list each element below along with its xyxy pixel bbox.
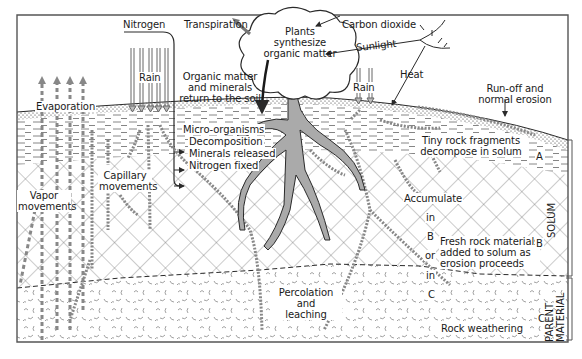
runoff-line-1: Run-off and (475, 83, 555, 94)
plants-synthesize-label: Plants synthesize organic matter (252, 26, 348, 59)
fresh-rock-label: Fresh rock materials added to solum as e… (439, 236, 540, 269)
fresh-rock-line-1: Fresh rock materials (440, 236, 539, 247)
material-label: MATERIAL (555, 293, 566, 342)
organic-return-label: Organic matter and minerals return to th… (178, 71, 262, 104)
b-mid-label: B (426, 231, 435, 242)
minerals-released-label: Minerals released (188, 148, 276, 159)
in-label-2: in (425, 270, 436, 281)
capillary-line-1: Capillary (99, 170, 151, 181)
tiny-rock-line-1: Tiny rock fragments (416, 135, 526, 146)
capillary-line-2: movements (99, 181, 151, 192)
horizon-b-label: B (535, 238, 544, 249)
capillary-label: Capillary movements (98, 170, 152, 192)
transpiration-label: Transpiration (184, 19, 248, 30)
rain-right-label: Rain (352, 82, 376, 93)
runoff-label: Run-off and normal erosion (475, 83, 555, 105)
percolation-line-1: Percolation (271, 287, 341, 298)
plants-line-2: synthesize (252, 37, 348, 48)
evaporation-label: Evaporation (35, 101, 96, 112)
organic-return-line-3: return to the soil (178, 93, 262, 104)
parent-label: PARENT (544, 303, 555, 342)
or-label: or (424, 250, 436, 261)
plants-line-3: organic matter (252, 48, 348, 59)
organic-return-line-2: and minerals (178, 82, 262, 93)
runoff-line-2: normal erosion (475, 94, 555, 105)
percolation-label: Percolation and leaching (270, 287, 342, 320)
rock-weathering-label: Rock weathering (440, 323, 524, 334)
nitrogen-label: Nitrogen (123, 19, 165, 30)
fresh-rock-line-3: erosion proceeds (440, 258, 539, 269)
sun-icon (420, 20, 450, 48)
micro-organisms-label: Micro-organisms (182, 124, 265, 135)
fresh-rock-line-2: added to solum as (440, 247, 539, 258)
rain-left-label: Rain (138, 72, 162, 83)
tiny-rock-label: Tiny rock fragments decompose in solum (415, 135, 527, 157)
vapor-line-1: Vapor (18, 190, 70, 201)
percolation-line-2: and (271, 298, 341, 309)
heat-label: Heat (400, 69, 423, 80)
in-label-1: in (425, 212, 436, 223)
organic-return-line-1: Organic matter (178, 71, 262, 82)
nitrogen-fixed-label: Nitrogen fixed (188, 160, 259, 171)
accumulate-label: Accumulate (403, 193, 463, 204)
horizon-a-label: A (535, 151, 544, 162)
plants-line-1: Plants (252, 26, 348, 37)
solum-label: SOLUM (546, 203, 557, 238)
vapor-label: Vapor movements (17, 190, 71, 212)
decomposition-label: Decomposition (188, 136, 264, 147)
soil-formation-diagram: Nitrogen Transpiration Carbon dioxide Su… (0, 0, 582, 359)
tiny-rock-line-2: decompose in solum (416, 146, 526, 157)
c-mid-label: C (427, 289, 436, 300)
percolation-line-3: leaching (271, 309, 341, 320)
vapor-line-2: movements (18, 201, 70, 212)
carbon-dioxide-label: Carbon dioxide (342, 19, 416, 30)
